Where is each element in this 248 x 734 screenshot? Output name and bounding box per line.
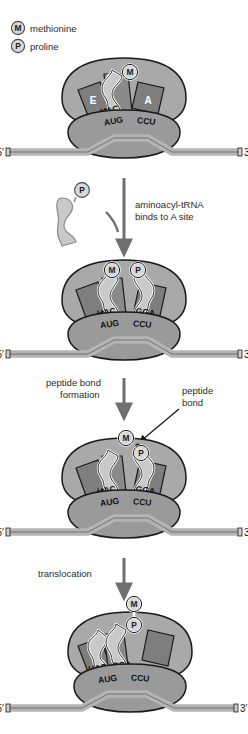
codon-2: CCU bbox=[137, 115, 157, 127]
transition-1-label-line2: binds to A site bbox=[135, 211, 194, 222]
legend-item-proline: P proline bbox=[11, 39, 58, 52]
amino-acid-label-m: M bbox=[109, 265, 116, 275]
amino-acid-proline: P bbox=[130, 262, 145, 277]
mrna-five-prime-label: 5′ bbox=[0, 349, 4, 360]
transition-2-label-line1: peptide bond bbox=[46, 377, 101, 388]
amino-acid-methionine: M bbox=[104, 262, 119, 277]
mrna-three-prime-label: 3′ bbox=[240, 703, 248, 714]
incoming-amino-acid-label: P bbox=[79, 185, 85, 195]
amino-acid-methionine: M bbox=[126, 596, 141, 611]
callout-peptide-bond-line2: bond bbox=[182, 397, 203, 408]
legend-symbol-methionine: M bbox=[15, 23, 22, 33]
amino-acid-methionine: M bbox=[118, 430, 133, 445]
codon-2: CCU bbox=[131, 673, 150, 684]
legend-item-methionine: M methionine bbox=[11, 21, 76, 34]
mrna-five-prime-label: 5′ bbox=[0, 703, 4, 714]
mrna-three-prime-label: 3′ bbox=[244, 349, 248, 360]
amino-acid-label-m: M bbox=[123, 433, 130, 443]
amino-acid-label-p: P bbox=[135, 265, 141, 275]
legend-label-proline: proline bbox=[30, 41, 59, 52]
a-site: A bbox=[132, 82, 164, 114]
a-site-label: A bbox=[144, 95, 151, 106]
callout-peptide-bond-line1: peptide bbox=[182, 385, 213, 396]
a-site bbox=[142, 630, 174, 666]
mrna-three-prime-label: 3′ bbox=[244, 527, 248, 538]
transition-2-label-line2: formation bbox=[60, 389, 100, 400]
mrna-five-prime-label: 5′ bbox=[0, 527, 4, 538]
legend-label-methionine: methionine bbox=[30, 23, 76, 34]
transition-1-label-line1: aminoacyl-tRNA bbox=[135, 199, 204, 210]
codon-2: CCU bbox=[133, 496, 152, 508]
amino-acid-label-m: M bbox=[131, 599, 138, 609]
amino-acid-proline: P bbox=[126, 617, 141, 632]
codon-2: CCU bbox=[133, 318, 152, 330]
mrna-five-prime-label: 5′ bbox=[0, 147, 4, 158]
transition-3-label-line1: translocation bbox=[38, 568, 92, 579]
legend-symbol-proline: P bbox=[15, 41, 21, 51]
amino-acid-label-m: M bbox=[127, 67, 134, 77]
amino-acid-proline: P bbox=[133, 445, 148, 460]
translation-diagram: M methionine P proline E A P UA bbox=[0, 0, 248, 734]
e-site-label: E bbox=[90, 95, 97, 106]
amino-acid-label-p: P bbox=[138, 448, 144, 458]
amino-acid-methionine: M bbox=[122, 64, 137, 79]
amino-acid-label-p: P bbox=[131, 620, 137, 630]
mrna-three-prime-label: 3′ bbox=[244, 147, 248, 158]
